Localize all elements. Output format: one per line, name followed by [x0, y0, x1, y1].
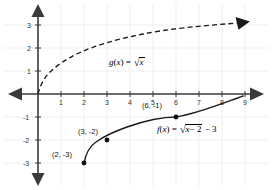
x-tick-label-2: 2: [82, 99, 86, 106]
x-axis-right-arrow-icon: [250, 88, 264, 101]
g-radical: √x: [133, 57, 145, 67]
x-tick-label-8: 8: [220, 99, 224, 106]
x-tick-label-7: 7: [197, 99, 201, 106]
point-marker-2-neg3: [82, 161, 87, 166]
function-label-f: f(x) = √x− 2 − 3: [157, 124, 217, 134]
y-tick-label-n3: -3: [23, 160, 29, 167]
x-tick-label-4: 4: [128, 99, 132, 106]
grid-lines: [4, 4, 268, 186]
x-tick-label-6: 6: [174, 99, 178, 106]
axis-arrowheads: [8, 4, 264, 186]
f-radicand: x− 2: [185, 124, 203, 134]
plot-svg: [0, 0, 272, 190]
f-radicand-rest: − 2: [190, 124, 202, 134]
y-axis-up-arrow-icon: [32, 4, 45, 17]
function-label-g: g(x) = √x: [109, 57, 145, 67]
x-axis-left-arrow-icon: [8, 88, 22, 101]
y-tick-label-3: 3: [27, 22, 31, 29]
annotation-point-6-neg1: (6, -1): [142, 102, 162, 110]
curve-g-arrowhead-icon: [236, 16, 251, 30]
x-tick-label-3: 3: [105, 99, 109, 106]
annotation-point-2-neg3: (2, -3): [52, 151, 72, 159]
x-tick-label-1: 1: [59, 99, 63, 106]
x-tick-label-9: 9: [243, 99, 247, 106]
y-tick-label-n1: -1: [23, 114, 29, 121]
f-radical: √x− 2: [179, 124, 202, 134]
point-marker-6-neg1: [174, 115, 179, 120]
y-axis-down-arrow-icon: [32, 173, 45, 186]
f-tail-term: − 3: [205, 124, 217, 134]
graph-canvas: 1 2 3 4 5 6 7 8 9 3 2 1 -1 -2 -3 (2, -3)…: [0, 0, 272, 190]
y-tick-label-2: 2: [27, 45, 31, 52]
y-tick-label-n2: -2: [23, 137, 29, 144]
g-radicand: x: [139, 57, 145, 67]
annotation-point-3-neg2: (3, -2): [78, 128, 98, 136]
point-marker-3-neg2: [105, 138, 110, 143]
y-tick-label-1: 1: [27, 68, 31, 75]
